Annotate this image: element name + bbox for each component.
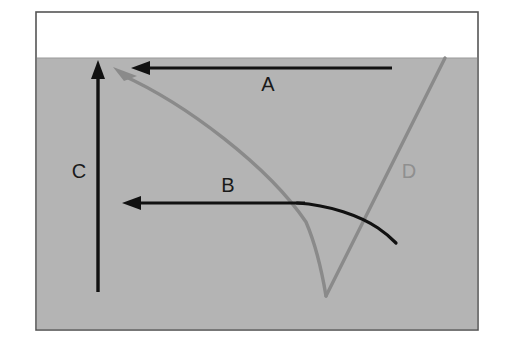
upper-white-band: [37, 13, 477, 58]
label-b: B: [221, 174, 234, 196]
label-d: D: [402, 160, 416, 182]
label-c: C: [72, 160, 86, 182]
lower-gray-band: [37, 58, 477, 329]
diagram-canvas: A B C D: [0, 0, 510, 346]
label-a: A: [261, 73, 275, 95]
figure-root: A B C D: [0, 0, 510, 346]
